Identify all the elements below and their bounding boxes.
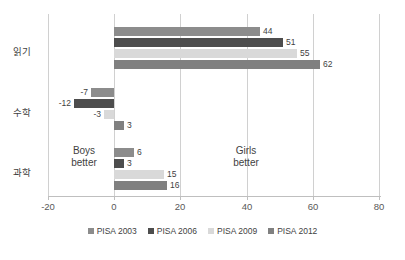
bar-value-label: 51 <box>286 35 295 49</box>
bar-value-label: 3 <box>127 156 132 170</box>
x-tick <box>48 196 49 200</box>
annotation-girls-better: Girls better <box>216 145 276 169</box>
gridline <box>379 14 380 196</box>
legend-label: PISA 2006 <box>157 226 197 236</box>
bar-math-2003: -7 <box>91 88 114 97</box>
x-tick <box>180 196 181 200</box>
bar-value-label: 55 <box>300 46 309 60</box>
bar-value-label: 44 <box>263 24 272 38</box>
legend-swatch-icon <box>208 228 214 234</box>
legend-item-pisa-2012[interactable]: PISA 2012 <box>268 226 317 236</box>
legend-label: PISA 2012 <box>277 226 317 236</box>
chart-legend: PISA 2003 PISA 2006 PISA 2009 PISA 2012 <box>0 226 405 236</box>
bar-value-label: -3 <box>93 107 101 121</box>
bar-value-label: 3 <box>127 118 132 132</box>
x-tick-label: 80 <box>359 201 399 212</box>
bar-reading-2003: 44 <box>114 27 260 36</box>
x-tick-label: -20 <box>28 201 68 212</box>
bar-reading-2009: 55 <box>114 49 297 58</box>
legend-label: PISA 2009 <box>217 226 257 236</box>
bar-reading-2006: 51 <box>114 38 283 47</box>
bar-value-label: -7 <box>80 85 88 99</box>
legend-item-pisa-2003[interactable]: PISA 2003 <box>88 226 137 236</box>
bar-math-2012: 3 <box>114 121 124 130</box>
bar-value-label: -12 <box>59 96 71 110</box>
category-label-math: 수학 <box>0 105 44 119</box>
x-tick-label: 20 <box>160 201 200 212</box>
category-label-reading: 읽기 <box>0 44 44 58</box>
bar-science-2012: 16 <box>114 181 167 190</box>
legend-swatch-icon <box>148 228 154 234</box>
bar-value-label: 6 <box>137 145 142 159</box>
category-label-science: 과학 <box>0 165 44 179</box>
x-tick-label: 40 <box>227 201 267 212</box>
x-tick-label: 0 <box>94 201 134 212</box>
legend-item-pisa-2006[interactable]: PISA 2006 <box>148 226 197 236</box>
gridline <box>313 14 314 196</box>
bar-math-2009: -3 <box>104 110 114 119</box>
legend-item-pisa-2009[interactable]: PISA 2009 <box>208 226 257 236</box>
bar-science-2009: 15 <box>114 170 164 179</box>
x-axis-line <box>48 196 381 197</box>
annotation-boys-better: Boys better <box>57 145 111 169</box>
legend-swatch-icon <box>268 228 274 234</box>
bar-reading-2012: 62 <box>114 60 320 69</box>
x-tick-label: 60 <box>293 201 333 212</box>
legend-swatch-icon <box>88 228 94 234</box>
legend-label: PISA 2003 <box>97 226 137 236</box>
x-tick <box>379 196 380 200</box>
gridline <box>48 14 49 196</box>
bar-chart: 44 51 55 62 -7 <box>0 0 405 260</box>
bar-value-label: 62 <box>323 57 332 71</box>
x-tick <box>313 196 314 200</box>
bar-value-label: 16 <box>170 178 179 192</box>
bar-science-2006: 3 <box>114 159 124 168</box>
x-tick <box>114 196 115 200</box>
x-tick <box>247 196 248 200</box>
